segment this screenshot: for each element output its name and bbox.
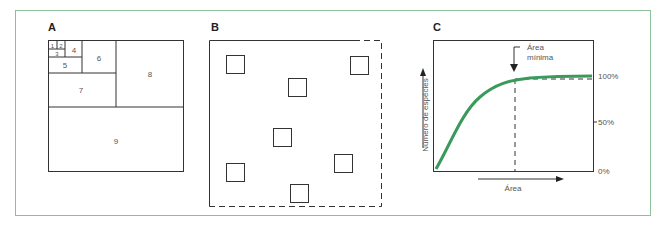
arrow-right-icon — [556, 176, 564, 182]
species-area-curve — [436, 76, 592, 169]
cell-2: 2 — [59, 43, 63, 49]
cell-7: 7 — [79, 86, 84, 95]
panel-c-label: C — [433, 21, 441, 33]
arrow-down-icon — [510, 64, 518, 72]
cell-5: 5 — [63, 61, 68, 70]
panel-a-label: A — [48, 21, 56, 33]
cell-6: 6 — [97, 54, 102, 63]
panel-c: C Área mínima 100% 50% 0% Área Número de… — [420, 21, 618, 193]
sample-quadrat — [351, 57, 369, 75]
sample-quadrat — [227, 56, 245, 74]
tick-label-0: 0% — [598, 167, 610, 176]
sample-quadrat — [274, 129, 292, 147]
arrow-up-icon — [420, 68, 426, 76]
annotation-minima: mínima — [527, 53, 554, 62]
x-axis-label: Área — [505, 184, 522, 193]
y-axis-label: Número de espécies — [421, 78, 430, 151]
sample-quadrat — [335, 155, 353, 173]
cell-1: 1 — [51, 43, 55, 49]
sample-quadrat — [291, 185, 309, 203]
annotation-area: Área — [527, 43, 544, 52]
cell-8: 8 — [148, 70, 153, 79]
tick-label-50: 50% — [598, 118, 614, 127]
tick-label-100: 100% — [598, 72, 618, 81]
panel-b-label: B — [211, 21, 219, 33]
cell-4: 4 — [72, 46, 77, 55]
panel-b: B — [210, 21, 382, 207]
panel-a: A 1 2 3 4 5 6 7 8 9 — [48, 21, 184, 172]
cell-9: 9 — [114, 137, 119, 146]
sample-quadrat — [289, 79, 307, 97]
figure-canvas: A 1 2 3 4 5 6 7 8 9 B — [0, 0, 656, 229]
cell-3: 3 — [55, 51, 59, 57]
sample-quadrat — [227, 164, 245, 182]
